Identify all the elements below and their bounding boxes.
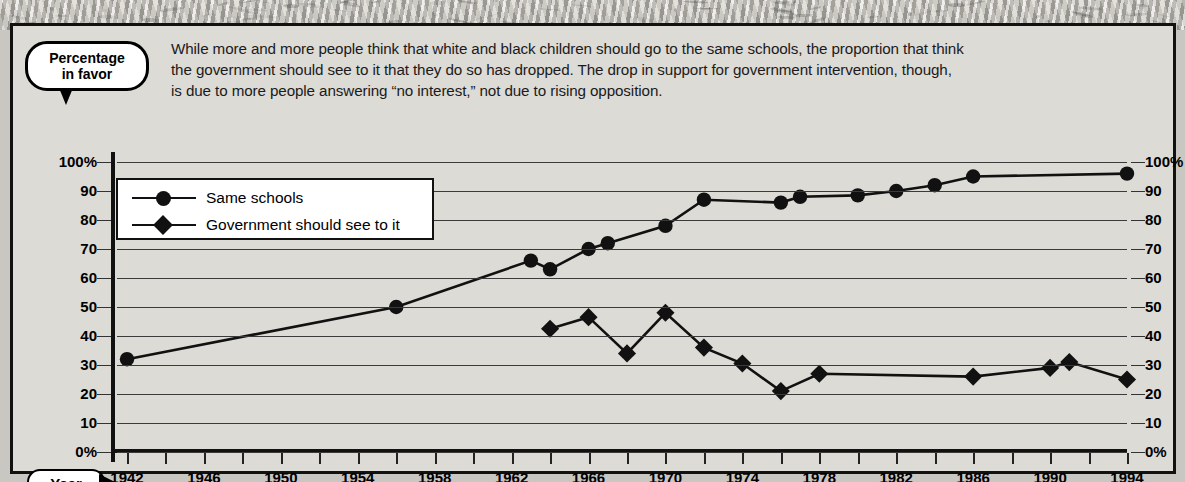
y-axis-tick-label-left: 100% <box>45 153 97 170</box>
gridline <box>117 394 1127 395</box>
diamond-marker-icon <box>132 215 196 235</box>
x-axis-tick <box>204 453 206 464</box>
data-point-diamond[interactable] <box>810 365 828 383</box>
x-axis-tick-label: 1982 <box>866 469 926 482</box>
year-axis-pill: Year <box>27 469 105 482</box>
chart-panel: Percentage in favor While more and more … <box>10 23 1176 474</box>
y-axis-tick <box>1131 394 1145 395</box>
legend-item-same-schools[interactable]: Same schools <box>118 184 432 211</box>
data-point-diamond[interactable] <box>1060 353 1078 371</box>
gridline <box>117 278 1127 279</box>
data-point-diamond[interactable] <box>964 368 982 386</box>
year-axis-label: Year <box>50 475 82 482</box>
data-point-circle[interactable] <box>697 193 711 207</box>
chart-page: Percentage in favor While more and more … <box>0 0 1185 482</box>
x-axis-tick <box>319 453 321 464</box>
y-axis-tick <box>97 423 111 424</box>
y-axis-tick-label-right: 10 <box>1145 414 1185 431</box>
legend-item-government[interactable]: Government should see to it <box>118 211 432 238</box>
data-point-circle[interactable] <box>774 195 788 209</box>
y-axis-tick-label-right: 80 <box>1145 211 1185 228</box>
y-axis-tick-label-right: 100% <box>1145 153 1185 170</box>
gridline <box>117 365 1127 366</box>
y-axis-tick-label-left: 0% <box>45 443 97 460</box>
y-axis-tick <box>1131 162 1145 163</box>
y-axis-tick <box>97 220 111 221</box>
y-axis-tick <box>1131 191 1145 192</box>
intro-line-2: the government should see to it that the… <box>171 59 1136 80</box>
x-axis-tick <box>435 453 437 464</box>
y-axis-tick-label-left: 60 <box>45 269 97 286</box>
y-axis-tick <box>97 452 111 453</box>
data-point-diamond[interactable] <box>1041 359 1059 377</box>
x-axis-tick <box>127 453 129 464</box>
data-point-circle[interactable] <box>543 262 557 276</box>
y-axis-tick <box>1131 307 1145 308</box>
y-axis-tick <box>1131 249 1145 250</box>
y-axis-tick-label-left: 40 <box>45 327 97 344</box>
x-axis-tick-label: 1966 <box>559 469 619 482</box>
gridline <box>117 336 1127 337</box>
y-axis-tick-label-left: 70 <box>45 240 97 257</box>
x-axis-tick-label: 1962 <box>482 469 542 482</box>
x-axis-tick <box>1050 453 1052 464</box>
x-axis-tick <box>819 453 821 464</box>
y-axis-tick <box>97 249 111 250</box>
x-axis-tick-label: 1950 <box>251 469 311 482</box>
y-axis-tick <box>1131 278 1145 279</box>
y-axis-tick-label-right: 20 <box>1145 385 1185 402</box>
gridline <box>117 162 1127 163</box>
data-point-diamond[interactable] <box>772 382 790 400</box>
x-axis-tick-label: 1974 <box>712 469 772 482</box>
x-axis-tick-label: 1954 <box>328 469 388 482</box>
y-axis-tick-label-right: 40 <box>1145 327 1185 344</box>
y-axis-tick <box>97 336 111 337</box>
gridline <box>117 423 1127 424</box>
y-axis-tick <box>97 394 111 395</box>
y-axis-tick <box>1131 365 1145 366</box>
x-axis-tick <box>1089 453 1091 464</box>
y-axis-tick <box>97 365 111 366</box>
x-axis-tick <box>858 453 860 464</box>
y-axis-tick-label-right: 70 <box>1145 240 1185 257</box>
x-axis-tick-label: 1946 <box>174 469 234 482</box>
data-point-diamond[interactable] <box>733 354 751 372</box>
x-axis-tick-label: 1978 <box>789 469 849 482</box>
y-axis-tick-label-right: 30 <box>1145 356 1185 373</box>
y-axis-tick <box>97 307 111 308</box>
x-axis-tick <box>973 453 975 464</box>
y-axis-tick-label-right: 50 <box>1145 298 1185 315</box>
year-arrow-icon <box>99 474 115 482</box>
y-axis-tick <box>1131 423 1145 424</box>
data-point-circle[interactable] <box>524 253 538 267</box>
y-axis-tick <box>1131 452 1145 453</box>
x-axis-tick <box>1012 453 1014 464</box>
intro-paragraph: While more and more people think that wh… <box>171 38 1136 101</box>
callout-line-1: Percentage <box>49 50 124 66</box>
y-axis-tick-label-right: 90 <box>1145 182 1185 199</box>
legend-label-same-schools: Same schools <box>206 189 303 207</box>
y-axis-line <box>111 152 115 462</box>
y-axis-tick <box>97 162 111 163</box>
x-axis-tick <box>742 453 744 464</box>
y-axis-tick-label-right: 0% <box>1145 443 1185 460</box>
data-point-diamond[interactable] <box>1118 370 1136 388</box>
intro-line-3: is due to more people answering “no inte… <box>171 80 1136 101</box>
x-axis-tick-label: 1958 <box>405 469 465 482</box>
y-axis-tick-label-right: 60 <box>1145 269 1185 286</box>
x-axis-tick <box>896 453 898 464</box>
x-axis-tick <box>627 453 629 464</box>
x-axis-tick <box>358 453 360 464</box>
x-axis-tick <box>781 453 783 464</box>
data-point-circle[interactable] <box>966 169 980 183</box>
data-point-circle[interactable] <box>1120 166 1134 180</box>
x-axis-tick <box>473 453 475 464</box>
gridline <box>117 307 1127 308</box>
x-axis-tick <box>242 453 244 464</box>
x-axis-tick-label: 1986 <box>943 469 1003 482</box>
x-axis-tick <box>1127 453 1129 464</box>
x-axis-tick-label: 1970 <box>635 469 695 482</box>
x-axis-tick-label: 1994 <box>1097 469 1157 482</box>
y-axis-tick <box>97 191 111 192</box>
y-axis-tick-label-left: 20 <box>45 385 97 402</box>
